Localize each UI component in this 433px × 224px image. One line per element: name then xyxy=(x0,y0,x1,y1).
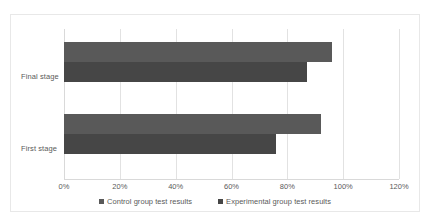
x-tick-label-60: 60% xyxy=(224,182,239,191)
x-tick-label-40: 40% xyxy=(168,182,183,191)
bar-final-stage-control xyxy=(64,42,332,62)
value-axis: 0%20%40%60%80%100%120% xyxy=(64,182,399,194)
gridline-120 xyxy=(399,29,400,179)
plot-area xyxy=(64,29,399,179)
bar-final-stage-experimental xyxy=(64,62,307,82)
bar-first-stage-control xyxy=(64,114,321,134)
legend-swatch-icon xyxy=(218,199,223,204)
legend-label: Control group test results xyxy=(107,197,192,206)
chart-legend: Control group test resultsExperimental g… xyxy=(11,197,419,206)
x-tick-label-100: 100% xyxy=(334,182,353,191)
x-tick-label-120: 120% xyxy=(389,182,408,191)
axis-baseline xyxy=(64,179,399,180)
x-tick-label-80: 80% xyxy=(280,182,295,191)
legend-swatch-icon xyxy=(99,199,104,204)
gridline-100 xyxy=(343,29,344,179)
chart-frame: Final stageFirst stage 0%20%40%60%80%100… xyxy=(10,14,420,212)
legend-item-experimental[interactable]: Experimental group test results xyxy=(218,197,331,206)
legend-item-control[interactable]: Control group test results xyxy=(99,197,192,206)
bar-first-stage-experimental xyxy=(64,134,276,154)
x-tick-label-20: 20% xyxy=(112,182,127,191)
x-tick-label-0: 0% xyxy=(59,182,70,191)
legend-label: Experimental group test results xyxy=(226,197,331,206)
